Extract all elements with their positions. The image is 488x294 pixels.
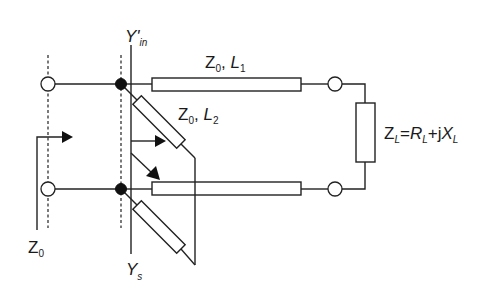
source-terminal-bottom (41, 182, 55, 196)
circuit-diagram: Y'in Z0, L1 Z0, L2 ZL=RL+jXL Z0 Ys (0, 0, 488, 294)
source-impedance-label: Z0 (28, 238, 44, 259)
stub-L2-bottom (133, 201, 185, 253)
line2-label: Z0, L2 (178, 105, 219, 126)
junction-node-top (116, 79, 127, 90)
z0-arrow-head-icon (62, 131, 73, 143)
line1-label: Z0, L1 (205, 53, 246, 74)
stub-bottom-lead-out (181, 249, 195, 265)
ys-arrow-line (131, 153, 152, 173)
transmission-line-L1-top (152, 78, 301, 91)
y-in-prime-label: Y'in (125, 27, 148, 48)
y-s-label: Ys (126, 260, 142, 282)
load-terminal-top (328, 77, 342, 91)
source-terminal-top (41, 77, 55, 91)
ys-arrow-head-icon (146, 166, 160, 180)
load-label: ZL=RL+jXL (384, 124, 458, 145)
bottom-load-wire (342, 162, 365, 189)
transmission-line-L1-bottom (152, 182, 301, 195)
load-terminal-bottom (328, 182, 342, 196)
top-load-wire (342, 84, 365, 103)
stub-top-lead-out (181, 144, 195, 158)
junction-node-bottom (116, 184, 127, 195)
load-impedance (356, 103, 375, 162)
